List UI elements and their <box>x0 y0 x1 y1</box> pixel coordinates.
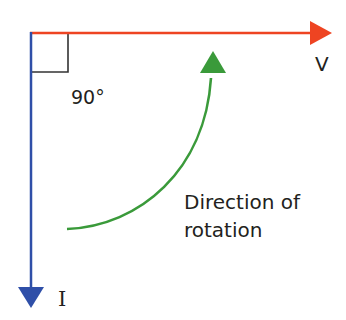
voltage-label: V <box>315 52 329 76</box>
rotation-arrowhead-icon <box>200 51 226 73</box>
rotation-label: Direction of rotation <box>184 188 300 244</box>
phasor-diagram: 90° V I Direction of rotation <box>0 0 346 320</box>
voltage-arrowhead-icon <box>310 21 332 45</box>
right-angle-marker <box>32 34 68 72</box>
current-arrowhead-icon <box>18 287 44 308</box>
rotation-label-line2: rotation <box>184 216 300 244</box>
phasor-graphic <box>0 0 346 320</box>
current-label: I <box>58 287 66 311</box>
rotation-label-line1: Direction of <box>184 188 300 216</box>
angle-label: 90° <box>71 86 105 108</box>
